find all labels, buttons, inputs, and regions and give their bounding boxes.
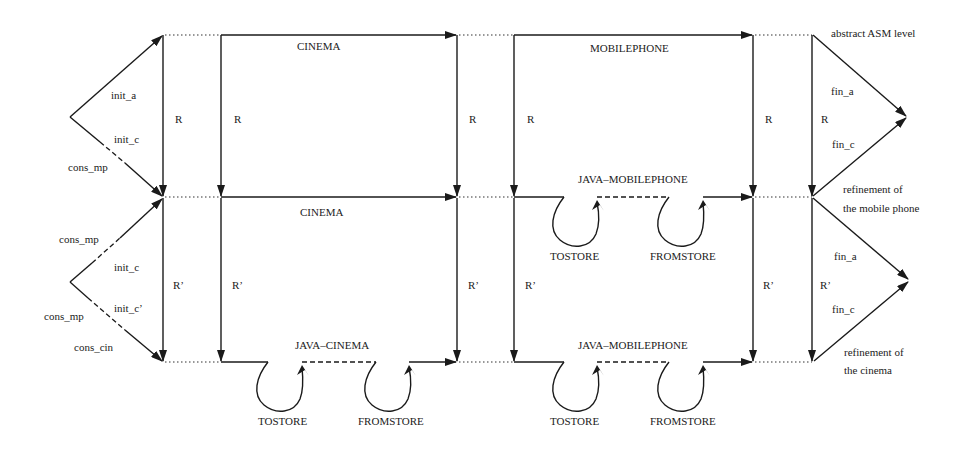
cinema-label-mid: CINEMA: [300, 206, 343, 218]
init-c-label: init_c: [114, 133, 139, 145]
cons-mp-label: cons_mp: [68, 161, 108, 173]
r-prime-label: R’: [173, 279, 184, 291]
java-mobilephone-label-mid: JAVA–MOBILEPHONE: [578, 173, 688, 185]
tostore-label: TOSTORE: [258, 415, 307, 427]
cons-mp-dashed: [100, 142, 125, 163]
r-label: R: [234, 113, 242, 125]
r-label: R: [469, 113, 477, 125]
mobile-refinement-label-1: refinement of: [843, 183, 903, 195]
level-labels: abstract ASM level refinement of the mob…: [831, 27, 919, 376]
mobilephone-label-top: MOBILEPHONE: [590, 42, 669, 54]
r-label: R: [175, 113, 183, 125]
fromstore-loop: [658, 362, 704, 411]
r-label: R: [527, 113, 535, 125]
init-c-prime-label: init_c’: [114, 302, 143, 314]
cinema-refinement-label-1: refinement of: [844, 346, 904, 358]
tostore-label: TOSTORE: [550, 415, 599, 427]
cinema-label-top: CINEMA: [297, 40, 340, 52]
tostore-label: TOSTORE: [550, 250, 599, 262]
tostore-loop: [553, 197, 599, 246]
fin-a-label: fin_a: [834, 250, 857, 262]
fin-a-arrow: [813, 35, 906, 116]
cons-mp-up-solid: [70, 263, 92, 282]
fromstore-loop: [365, 362, 411, 411]
fin-c-label: fin_c: [832, 138, 855, 150]
fromstore-label: FROMSTORE: [650, 415, 716, 427]
abstract-level-label: abstract ASM level: [831, 27, 915, 39]
fromstore-label: FROMSTORE: [650, 250, 716, 262]
java-mobilephone-label-bot: JAVA–MOBILEPHONE: [578, 339, 688, 351]
r-prime-label: R’: [232, 279, 243, 291]
tostore-loop: [257, 362, 303, 411]
cons-mp-lower-label: cons_mp: [44, 310, 84, 322]
r-prime-label: R’: [763, 279, 774, 291]
init-a-arrow: [70, 36, 162, 117]
mobile-refinement-label-2: the mobile phone: [843, 202, 919, 214]
init-c-arrow-end: [125, 163, 162, 196]
java-cinema-label: JAVA–CINEMA: [295, 339, 369, 351]
init-top-triangle: init_a init_c cons_mp: [68, 36, 162, 196]
init-bottom-triangle: cons_mp init_c init_c’ cons_mp cons_cin: [44, 199, 162, 361]
r-prime-arrows-bottom: R’ R’ R’ R’ R’ R’: [163, 198, 831, 361]
init-c-up-arrow: [120, 199, 162, 238]
refinement-diagram: init_a init_c cons_mp cons_mp init_c ini…: [0, 0, 978, 451]
cinema-refinement-level: JAVA–CINEMA TOSTORE FROMSTORE JAVA–MOBIL…: [221, 339, 752, 427]
r-prime-label: R’: [468, 279, 479, 291]
init-a-label: init_a: [111, 89, 136, 101]
r-prime-label: R’: [820, 279, 831, 291]
init-c-prime-solid: [70, 282, 88, 298]
mobile-refinement-level: CINEMA JAVA–MOBILEPHONE TOSTORE FROMSTOR…: [221, 173, 752, 262]
r-prime-label: R’: [525, 279, 536, 291]
abstract-level: CINEMA MOBILEPHONE: [221, 35, 752, 54]
cons-mp-upper-label: cons_mp: [59, 233, 99, 245]
dotted-connectors: [165, 35, 812, 362]
init-c-label-2: init_c: [114, 261, 139, 273]
fromstore-label: FROMSTORE: [358, 415, 424, 427]
fin-c-label: fin_c: [832, 303, 855, 315]
r-arrows-top: R R R R R R: [163, 35, 829, 196]
cons-cin-label: cons_cin: [74, 341, 114, 353]
init-c-arrow-solid: [70, 117, 100, 142]
init-c-prime-arrow: [125, 330, 162, 361]
r-label: R: [821, 113, 829, 125]
r-label: R: [765, 113, 773, 125]
cinema-refinement-label-2: the cinema: [844, 364, 892, 376]
tostore-loop: [553, 362, 599, 411]
fin-a-label: fin_a: [831, 85, 854, 97]
fromstore-loop: [658, 197, 704, 246]
